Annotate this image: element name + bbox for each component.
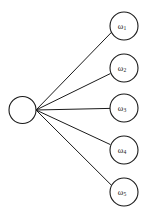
node-omega-2-group[interactable]: ω2 xyxy=(110,54,138,82)
diagram-canvas: ω1 ω2 ω3 ω4 ω5 xyxy=(0,0,146,220)
edge-hub-to-omega-1 xyxy=(36,32,112,110)
hub-node-group[interactable] xyxy=(9,97,36,124)
node-omega-3-group[interactable]: ω3 xyxy=(110,94,138,122)
edge-hub-to-omega-5 xyxy=(36,110,112,186)
node-omega-1-group[interactable]: ω1 xyxy=(110,12,138,40)
edge-hub-to-omega-2 xyxy=(36,74,110,110)
edge-hub-to-omega-4 xyxy=(36,110,110,145)
edge-hub-to-omega-3 xyxy=(36,108,110,110)
node-omega-5-group[interactable]: ω5 xyxy=(110,178,138,206)
hub-node[interactable] xyxy=(9,97,36,124)
edge-group xyxy=(36,32,112,185)
graph-svg: ω1 ω2 ω3 ω4 ω5 xyxy=(0,0,146,220)
node-omega-4-group[interactable]: ω4 xyxy=(110,136,138,164)
